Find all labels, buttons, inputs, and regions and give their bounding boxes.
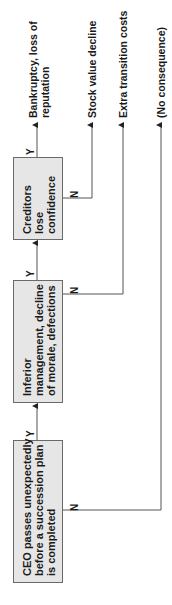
creditors-label: Creditors lose confidence — [21, 176, 57, 234]
creditors-yes-label: Y — [25, 148, 36, 155]
ceo-yes-label: Y — [25, 430, 36, 437]
inferior-label: Inferior management, decline of morale, … — [21, 284, 57, 396]
ceo-no-label: N — [69, 504, 80, 511]
creditors-no-arrow — [62, 125, 92, 198]
outcome-bankruptcy: Bankruptcy, loss of reputation — [27, 21, 51, 118]
ceo-label: CEO passes unexpectedly before a success… — [21, 438, 57, 576]
inferior-no-label: N — [69, 287, 80, 294]
outcome-no-consequence: (No consequence) — [155, 27, 167, 118]
creditors-no-label: N — [69, 191, 80, 198]
outcome-extra-costs: Extra transition costs — [117, 11, 129, 118]
ceo-no-arrow — [62, 125, 161, 510]
outcome-stock-decline: Stock value decline — [86, 21, 98, 118]
inferior-yes-label: Y — [25, 270, 36, 277]
